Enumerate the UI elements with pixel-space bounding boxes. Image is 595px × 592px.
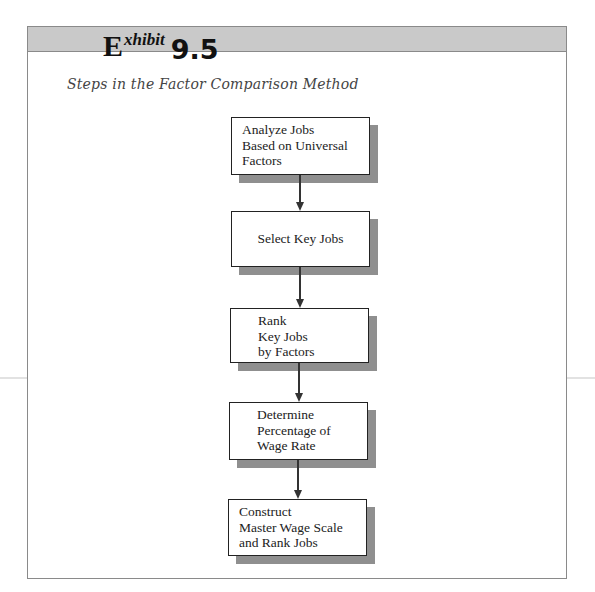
flow-connector (297, 460, 299, 491)
flow-step-label: Analyze Jobs Based on Universal Factors (232, 118, 369, 169)
arrow-down-icon (294, 490, 302, 499)
exhibit-title: Exhibit9.5 (103, 31, 218, 61)
flow-step-label: Construct Master Wage Scale and Rank Job… (229, 500, 366, 551)
flow-step-label: Rank Key Jobs by Factors (231, 309, 368, 360)
arrow-down-icon (296, 202, 304, 211)
exhibit-number: 9.5 (171, 34, 219, 65)
flow-step-select-key-jobs: Select Key Jobs (231, 211, 370, 267)
flow-step-label: Select Key Jobs (257, 231, 343, 247)
flow-connector (299, 267, 301, 300)
exhibit-initial: E (103, 29, 123, 62)
flow-step-label: Determine Percentage of Wage Rate (230, 403, 367, 454)
flow-step-determine-percentage: Determine Percentage of Wage Rate (229, 402, 368, 460)
flow-connector (299, 175, 301, 203)
exhibit-subtitle: Steps in the Factor Comparison Method (67, 76, 359, 92)
flow-step-rank-key-jobs: Rank Key Jobs by Factors (230, 308, 369, 363)
flow-step-analyze-jobs: Analyze Jobs Based on Universal Factors (231, 117, 370, 175)
exhibit-superscript: xhibit (124, 30, 165, 49)
flow-step-construct-master-wage-scale: Construct Master Wage Scale and Rank Job… (228, 499, 367, 556)
arrow-down-icon (296, 299, 304, 308)
flow-connector (298, 363, 300, 394)
arrow-down-icon (295, 393, 303, 402)
